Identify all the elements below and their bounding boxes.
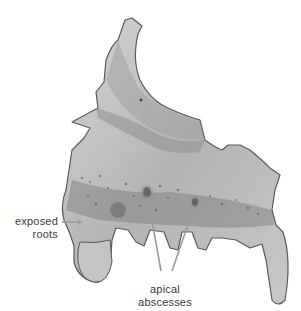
label-exposed-roots-line2: roots <box>2 228 58 241</box>
label-apical-abscesses-line2: abscesses <box>128 296 202 309</box>
maxilla-illustration <box>0 0 301 311</box>
label-apical-abscesses-line1: apical <box>128 283 202 296</box>
label-exposed-roots-line1: exposed <box>2 215 58 228</box>
diagram-canvas: exposed roots apical abscesses <box>0 0 301 311</box>
label-apical-abscesses: apical abscesses <box>128 283 202 309</box>
label-exposed-roots: exposed roots <box>2 215 58 241</box>
